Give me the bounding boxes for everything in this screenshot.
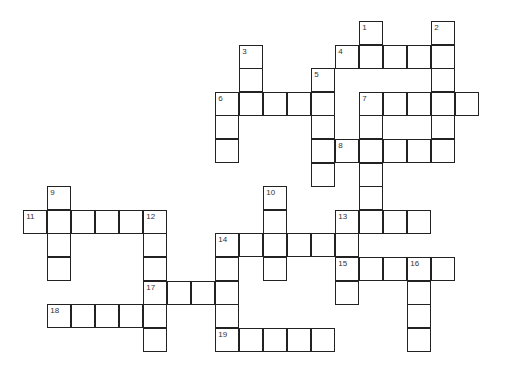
crossword-cell[interactable]: [95, 304, 119, 328]
crossword-cell[interactable]: 9: [47, 186, 71, 210]
crossword-cell[interactable]: [407, 210, 431, 234]
clue-number: 1: [362, 23, 366, 32]
clue-number: 9: [50, 188, 54, 197]
crossword-cell[interactable]: [263, 257, 287, 281]
crossword-cell[interactable]: [215, 281, 239, 305]
crossword-cell[interactable]: [287, 328, 311, 352]
crossword-cell[interactable]: [287, 233, 311, 257]
crossword-cell[interactable]: [239, 328, 263, 352]
crossword-cell[interactable]: [431, 92, 455, 116]
crossword-cell[interactable]: [407, 139, 431, 163]
crossword-cell[interactable]: [47, 233, 71, 257]
crossword-cell[interactable]: [95, 210, 119, 234]
crossword-cell[interactable]: [335, 233, 359, 257]
crossword-cell[interactable]: [263, 233, 287, 257]
crossword-cell[interactable]: [311, 328, 335, 352]
crossword-cell[interactable]: [47, 257, 71, 281]
clue-number: 7: [362, 94, 366, 103]
clue-number: 18: [50, 306, 59, 315]
clue-number: 12: [146, 212, 155, 221]
crossword-cell[interactable]: [383, 139, 407, 163]
crossword-cell[interactable]: [311, 92, 335, 116]
crossword-cell[interactable]: 6: [215, 92, 239, 116]
crossword-cell[interactable]: [167, 281, 191, 305]
crossword-cell[interactable]: [407, 281, 431, 305]
crossword-cell[interactable]: [143, 233, 167, 257]
crossword-cell[interactable]: [431, 257, 455, 281]
crossword-cell[interactable]: 2: [431, 21, 455, 45]
crossword-cell[interactable]: [311, 233, 335, 257]
clue-number: 3: [242, 47, 246, 56]
crossword-cell[interactable]: 4: [335, 45, 359, 69]
crossword-cell[interactable]: 8: [335, 139, 359, 163]
clue-number: 10: [266, 188, 275, 197]
crossword-cell[interactable]: [383, 257, 407, 281]
crossword-cell[interactable]: [215, 115, 239, 139]
crossword-cell[interactable]: [311, 163, 335, 187]
crossword-cell[interactable]: [119, 210, 143, 234]
crossword-cell[interactable]: [455, 92, 479, 116]
crossword-cell[interactable]: [263, 328, 287, 352]
crossword-cell[interactable]: 19: [215, 328, 239, 352]
crossword-cell[interactable]: 3: [239, 45, 263, 69]
crossword-cell[interactable]: [143, 304, 167, 328]
crossword-cell[interactable]: 16: [407, 257, 431, 281]
crossword-cell[interactable]: [119, 304, 143, 328]
crossword-cell[interactable]: 1: [359, 21, 383, 45]
crossword-cell[interactable]: [215, 139, 239, 163]
crossword-cell[interactable]: [71, 304, 95, 328]
clue-number: 4: [338, 47, 342, 56]
crossword-cell[interactable]: [335, 281, 359, 305]
crossword-cell[interactable]: [359, 115, 383, 139]
crossword-cell[interactable]: [383, 92, 407, 116]
crossword-cell[interactable]: [143, 328, 167, 352]
crossword-cell[interactable]: [311, 115, 335, 139]
crossword-cell[interactable]: [263, 210, 287, 234]
crossword-cell[interactable]: [407, 45, 431, 69]
crossword-cell[interactable]: 15: [335, 257, 359, 281]
crossword-cell[interactable]: [239, 68, 263, 92]
crossword-cell[interactable]: [407, 328, 431, 352]
crossword-cell[interactable]: [263, 92, 287, 116]
clue-number: 8: [338, 141, 342, 150]
clue-number: 16: [410, 259, 419, 268]
crossword-cell[interactable]: 17: [143, 281, 167, 305]
crossword-cell[interactable]: [215, 257, 239, 281]
crossword-cell[interactable]: [359, 186, 383, 210]
crossword-cell[interactable]: 10: [263, 186, 287, 210]
crossword-cell[interactable]: [359, 257, 383, 281]
crossword-cell[interactable]: 12: [143, 210, 167, 234]
crossword-cell[interactable]: 7: [359, 92, 383, 116]
crossword-cell[interactable]: 5: [311, 68, 335, 92]
crossword-cell[interactable]: [311, 139, 335, 163]
crossword-cell[interactable]: [239, 233, 263, 257]
clue-number: 6: [218, 94, 222, 103]
crossword-cell[interactable]: [191, 281, 215, 305]
clue-number: 14: [218, 235, 227, 244]
crossword-cell[interactable]: [431, 115, 455, 139]
clue-number: 5: [314, 70, 318, 79]
crossword-cell[interactable]: [407, 304, 431, 328]
crossword-cell[interactable]: [215, 304, 239, 328]
crossword-cell[interactable]: 11: [23, 210, 47, 234]
crossword-cell[interactable]: [431, 68, 455, 92]
crossword-cell[interactable]: 14: [215, 233, 239, 257]
crossword-cell[interactable]: [383, 210, 407, 234]
crossword-cell[interactable]: [359, 163, 383, 187]
crossword-cell[interactable]: [431, 139, 455, 163]
crossword-cell[interactable]: [71, 210, 95, 234]
crossword-cell[interactable]: [359, 45, 383, 69]
clue-number: 11: [26, 212, 34, 221]
crossword-cell[interactable]: [407, 92, 431, 116]
crossword-cell[interactable]: [359, 139, 383, 163]
crossword-cell[interactable]: [47, 210, 71, 234]
crossword-cell[interactable]: [143, 257, 167, 281]
crossword-cell[interactable]: [287, 92, 311, 116]
crossword-cell[interactable]: [359, 210, 383, 234]
crossword-cell[interactable]: 13: [335, 210, 359, 234]
crossword-cell[interactable]: [383, 45, 407, 69]
crossword-cell[interactable]: [431, 45, 455, 69]
crossword-cell[interactable]: 18: [47, 304, 71, 328]
clue-number: 17: [146, 283, 155, 292]
crossword-cell[interactable]: [239, 92, 263, 116]
